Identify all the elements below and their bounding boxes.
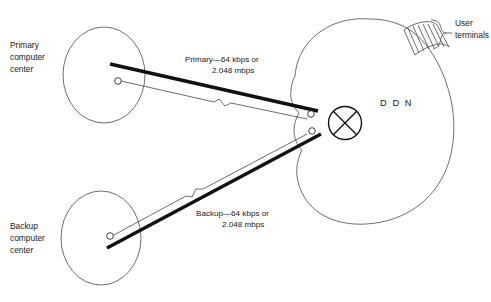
primary-center-label-line2: computer xyxy=(10,52,45,62)
user-terminals-label-line1: User xyxy=(455,18,473,28)
network-diagram: User terminals D D N Primary computer ce… xyxy=(0,0,491,302)
ddn-cloud-label: D D N xyxy=(380,98,413,108)
user-terminals-hatch-band xyxy=(404,22,449,55)
backup-link-thin-line xyxy=(112,134,307,236)
diagram-canvas: User terminals D D N Primary computer ce… xyxy=(0,0,491,302)
primary-computer-center-shape xyxy=(63,27,145,123)
primary-center-label-line3: center xyxy=(10,64,33,74)
backup-link-label-line1: Backup—64 kbps or xyxy=(196,209,269,218)
primary-link-label-line2: 2.048 mbps xyxy=(212,66,254,75)
primary-link-label-line1: Primary—64 kbps or xyxy=(185,55,259,64)
primary-center-port-circle xyxy=(115,78,122,85)
backup-center-label-line2: computer xyxy=(10,233,45,243)
backup-link-thick-line xyxy=(107,134,321,248)
user-terminals-label-line2: terminals xyxy=(455,30,489,40)
backup-center-port-circle xyxy=(107,233,114,240)
ddn-primary-port-circle xyxy=(308,111,315,118)
ddn-cloud-outline xyxy=(291,19,454,224)
backup-center-label-line1: Backup xyxy=(10,221,38,231)
ddn-switch-node xyxy=(329,107,362,140)
backup-link-label-line2: 2.048 mbps xyxy=(222,220,264,229)
primary-center-label-line1: Primary xyxy=(10,40,40,50)
ddn-backup-port-circle xyxy=(309,128,316,135)
backup-center-label-line3: center xyxy=(10,245,33,255)
